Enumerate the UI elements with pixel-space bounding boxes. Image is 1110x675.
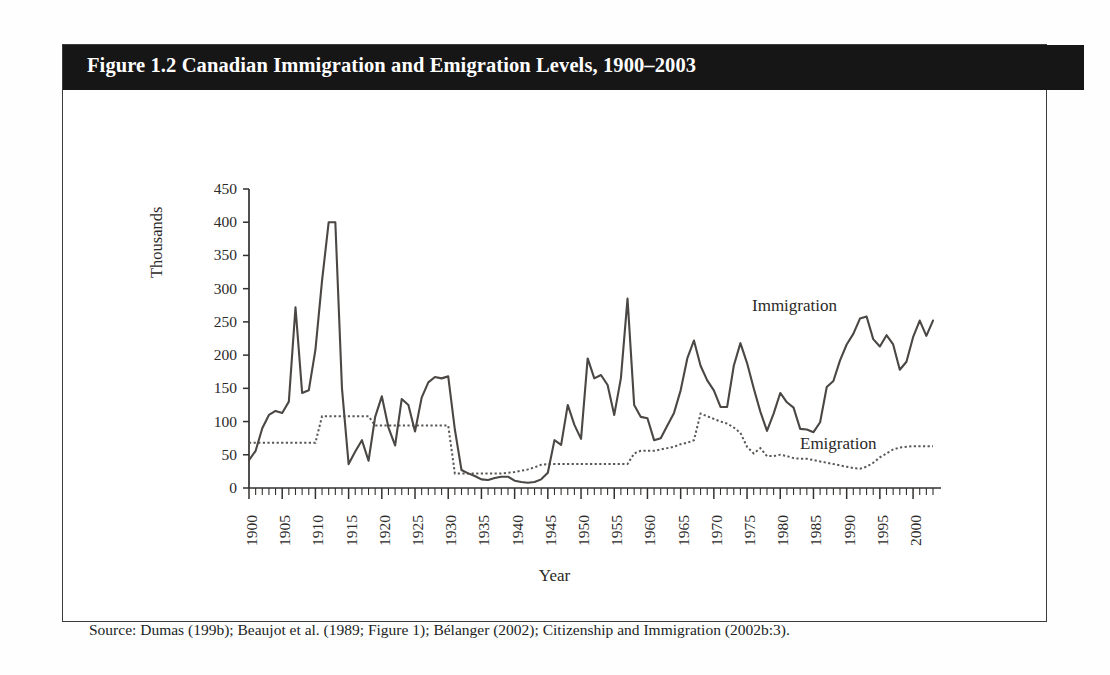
y-tick-label: 300 [191,280,237,298]
y-tick-label: 0 [191,479,237,497]
x-tick-label: 1965 [675,515,693,546]
x-tick-label: 1900 [243,515,261,546]
x-tick-label: 1910 [309,515,327,546]
x-tick-label: 1960 [641,515,659,546]
x-tick-label: 1905 [276,515,294,546]
figure-title-bar: Figure 1.2 Canadian Immigration and Emig… [63,45,1084,90]
x-tick-label: 1950 [575,515,593,546]
x-tick-label: 1940 [509,515,527,546]
x-tick-label: 1970 [708,515,726,546]
scanned-page: Figure 1.2 Canadian Immigration and Emig… [0,0,1110,675]
x-tick-label: 1930 [442,515,460,546]
x-tick-label: 1915 [343,515,361,546]
x-tick-label: 1995 [874,515,892,546]
x-tick-label: 1980 [774,515,792,546]
x-tick-label: 2000 [907,515,925,546]
y-tick-label: 350 [191,246,237,264]
x-tick-label: 1935 [475,515,493,546]
x-tick-label: 1990 [841,515,859,546]
y-tick-label: 400 [191,213,237,231]
x-tick-label: 1925 [409,515,427,546]
x-tick-label: 1945 [542,515,560,546]
x-axis-title: Year [63,566,1046,586]
y-tick-label: 450 [191,180,237,198]
source-note: Source: Dumas (199b); Beaujot et al. (19… [89,621,790,639]
page-title: Figure 1.2 Canadian Immigration and Emig… [87,54,696,77]
annotation-immigration: Immigration [752,296,837,316]
y-tick-label: 200 [191,346,237,364]
figure-container: Figure 1.2 Canadian Immigration and Emig… [62,44,1047,622]
annotation-emigration: Emigration [800,434,876,454]
y-tick-label: 150 [191,379,237,397]
y-tick-label: 250 [191,313,237,331]
y-tick-label: 50 [191,446,237,464]
x-tick-label: 1985 [807,515,825,546]
x-tick-label: 1920 [376,515,394,546]
y-tick-label: 100 [191,413,237,431]
x-tick-label: 1975 [741,515,759,546]
chart-plot-area: Thousands 050100150200250300350400450 19… [63,90,1046,621]
x-tick-label: 1955 [608,515,626,546]
